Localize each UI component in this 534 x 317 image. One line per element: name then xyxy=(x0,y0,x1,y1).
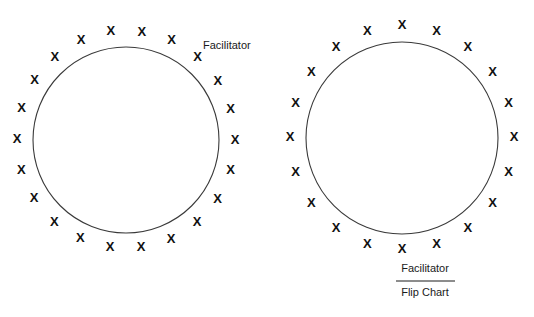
seat-marker: X xyxy=(167,231,176,246)
seat-marker: X xyxy=(77,32,86,47)
seat-marker: X xyxy=(307,195,316,210)
circle-seating-right-panel: XXXXXXXXXXXXXXXXXXXX Facilitator Flip Ch… xyxy=(286,17,519,298)
seat-marker: X xyxy=(17,100,26,115)
seat-marker: X xyxy=(332,220,341,235)
seat-marker: X xyxy=(226,101,235,116)
seat-marker: X xyxy=(137,239,146,254)
seat-marker: X xyxy=(363,236,372,251)
seating-circle-left xyxy=(33,47,219,233)
seat-marker: X xyxy=(398,241,407,256)
seat-marker: X xyxy=(226,162,235,177)
seat-marker: X xyxy=(13,131,22,146)
seat-marker: X xyxy=(432,23,441,38)
seat-marker: X xyxy=(432,236,441,251)
seat-marker: X xyxy=(193,214,202,229)
seat-marker: X xyxy=(291,164,300,179)
seat-marker: X xyxy=(106,239,115,254)
seat-marker: X xyxy=(76,230,85,245)
seat-marker: X xyxy=(463,220,472,235)
seat-marker: X xyxy=(488,195,497,210)
seat-marker-group-left: XXXXXXXXXXXXXXXXXXXXXX xyxy=(13,23,240,254)
seat-marker: X xyxy=(193,49,202,64)
circle-seating-left-panel: XXXXXXXXXXXXXXXXXXXXXX Facilitator xyxy=(13,23,251,254)
seat-marker: X xyxy=(286,129,295,144)
seat-marker: X xyxy=(463,39,472,54)
seat-marker: X xyxy=(291,95,300,110)
seat-marker: X xyxy=(50,214,59,229)
seat-marker-group-right: XXXXXXXXXXXXXXXXXXXX xyxy=(286,17,519,256)
seat-marker: X xyxy=(363,23,372,38)
seat-marker: X xyxy=(106,23,115,38)
seating-circle-right xyxy=(306,42,498,234)
facilitator-label-left: Facilitator xyxy=(203,39,251,51)
seat-marker: X xyxy=(398,17,407,32)
seat-marker: X xyxy=(167,32,176,47)
seat-marker: X xyxy=(332,39,341,54)
seat-marker: X xyxy=(138,24,147,39)
seat-marker: X xyxy=(231,132,240,147)
seat-marker: X xyxy=(504,95,513,110)
flip-chart-label: Flip Chart xyxy=(401,286,449,298)
seat-marker: X xyxy=(307,64,316,79)
facilitator-label-right: Facilitator xyxy=(401,262,449,274)
seat-marker: X xyxy=(51,49,60,64)
seat-marker: X xyxy=(510,129,519,144)
seat-marker: X xyxy=(30,190,39,205)
seating-arrangement-diagram: XXXXXXXXXXXXXXXXXXXXXX Facilitator XXXXX… xyxy=(0,0,534,317)
seat-marker: X xyxy=(30,72,39,87)
diagram-canvas: XXXXXXXXXXXXXXXXXXXXXX Facilitator XXXXX… xyxy=(0,0,534,317)
seat-marker: X xyxy=(213,191,222,206)
seat-marker: X xyxy=(214,73,223,88)
seat-marker: X xyxy=(17,162,26,177)
seat-marker: X xyxy=(504,164,513,179)
seat-marker: X xyxy=(488,64,497,79)
